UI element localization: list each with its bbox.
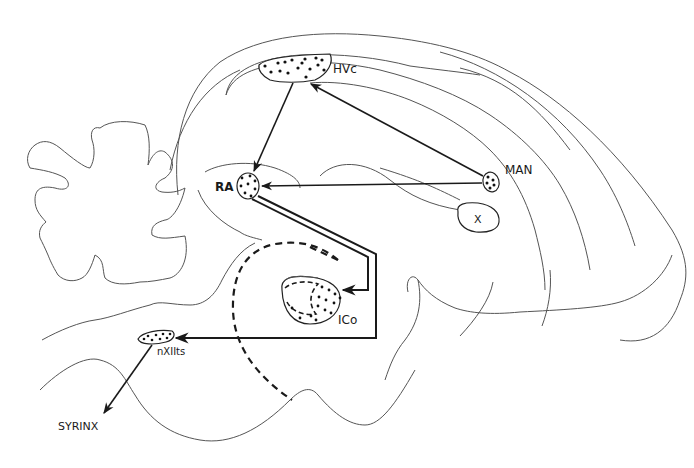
ra-nucleus: RA [215,173,259,199]
hvc-label: HVc [333,62,357,76]
nxiits-nucleus: nXIIts [138,330,185,357]
arrow-nxiits-to-syrinx [104,345,152,413]
area-x: X [458,203,499,232]
song-system-diagram: X HVc RA MAN [0,0,694,468]
hvc-lamina [226,55,590,290]
syrinx-label: SYRINX [58,420,99,433]
ra-label: RA [215,180,234,194]
arrow-man-to-hvc [311,84,483,176]
x-label: X [474,213,482,226]
nxiits-label: nXIIts [157,346,185,357]
ra-region-outline [198,163,460,240]
man-nucleus: MAN [481,163,533,194]
man-label: MAN [505,163,533,177]
arrow-man-to-ra [262,183,482,186]
projection-arrows [104,83,483,413]
brainstem-outline [40,168,672,441]
cerebellum-outline [28,122,187,284]
ico-label: ICo [338,313,357,327]
ico-nucleus: ICo [282,276,357,327]
arrow-hvc-to-ra [254,83,293,171]
